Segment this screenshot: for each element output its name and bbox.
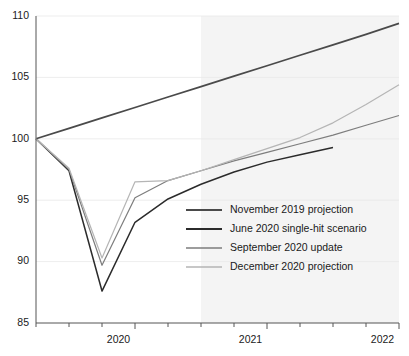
shaded-forecast-band	[201, 16, 399, 323]
y-axis: 859095100105110	[11, 9, 36, 328]
forecast-shading	[201, 16, 399, 323]
legend-label-2: September 2020 update	[230, 241, 343, 253]
y-tick-label-95: 95	[17, 193, 29, 205]
legend-label-0: November 2019 projection	[230, 203, 353, 215]
x-axis: 202020212022	[36, 323, 399, 345]
legend-label-3: December 2020 projection	[230, 260, 353, 272]
x-tick-label-2021: 2021	[239, 333, 263, 345]
line-chart: 859095100105110 202020212022 November 20…	[0, 0, 409, 356]
y-tick-label-90: 90	[17, 254, 29, 266]
y-tick-label-85: 85	[17, 316, 29, 328]
chart-container: 859095100105110 202020212022 November 20…	[0, 0, 409, 356]
y-tick-label-100: 100	[11, 132, 29, 144]
y-tick-label-110: 110	[12, 9, 29, 21]
x-tick-label-2020: 2020	[107, 333, 131, 345]
y-tick-label-105: 105	[11, 70, 29, 82]
legend-label-1: June 2020 single-hit scenario	[230, 222, 367, 234]
x-tick-label-2022: 2022	[371, 333, 395, 345]
